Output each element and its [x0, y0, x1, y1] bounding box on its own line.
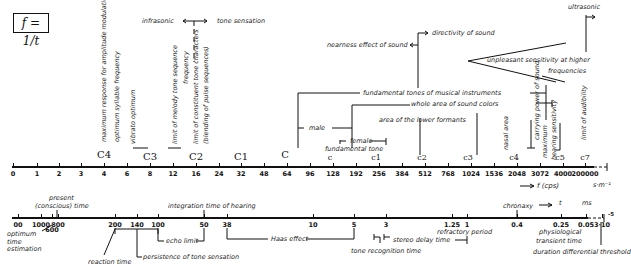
freq-tick-label: 512 [418, 171, 432, 178]
label-constituent: limit of constituent tone characters [193, 29, 200, 144]
freq-tick-label: 1536 [485, 171, 503, 178]
label-tone-sensation: tone sensation [217, 18, 265, 25]
freq-tick-label: 4 [102, 171, 107, 178]
freq-tick-label: 16 [191, 171, 200, 178]
freq-tick-label: 2048 [508, 171, 526, 178]
freq-tick-label: 256 [372, 171, 386, 178]
freq-tick-mark [471, 163, 472, 167]
time-tick-mark [517, 214, 518, 218]
freq-tick-label: 192 [349, 171, 363, 178]
time-tick-mark [467, 214, 468, 218]
freq-tick-mark [241, 163, 242, 167]
freq-tick-mark [379, 163, 380, 167]
time-tick-label: 0.4 [511, 222, 523, 229]
freq-tick-label: 3 [79, 171, 84, 178]
freq-tick-mark [356, 163, 357, 167]
freq-tick-label: 768 [441, 171, 455, 178]
time-tick-label: 5 [352, 222, 357, 229]
freq-tick-mark [333, 163, 334, 167]
time-tick-mark [204, 214, 205, 218]
freq-tick-mark [585, 163, 586, 167]
freq-tick-mark [173, 163, 174, 167]
note-C4: C4 [97, 150, 111, 160]
time-tick-label: 800 [51, 222, 65, 229]
time-tick-label: 3 [384, 222, 389, 229]
freq-tick-label: 64 [282, 171, 291, 178]
label-stereo-delay: stereo delay time [393, 237, 450, 244]
note-c: c [328, 154, 332, 162]
freq-tick-label: 1024 [462, 171, 480, 178]
freq-tick-mark [219, 163, 220, 167]
time-tick-mark [137, 214, 138, 218]
time-tick-mark [602, 214, 603, 218]
freq-tick-label: 2 [57, 171, 62, 178]
time-tick-label: 3·10 [594, 222, 610, 229]
frequency-axis [12, 166, 594, 168]
time-tick-label: 50 [199, 222, 208, 229]
label-optimum: optimum [7, 231, 36, 238]
label-vibrato: vibrato optimum [130, 90, 137, 144]
freq-tick-mark [104, 163, 105, 167]
label-echo-limit: echo limit [166, 238, 198, 245]
label-directivity: directivity of sound [432, 30, 495, 37]
freq-tick-mark [81, 163, 82, 167]
note-C3: C3 [143, 152, 157, 162]
label-female: female [350, 138, 372, 145]
freq-tick-mark [287, 163, 288, 167]
time-tick-label: 00 [13, 222, 22, 229]
freq-tick-label: 8 [148, 171, 153, 178]
time-exponent: -5 [608, 212, 614, 218]
unit-ms: ms [582, 200, 592, 207]
time-tick-label: 100 [151, 222, 165, 229]
time-tick-label: 38 [222, 222, 231, 229]
time-tick-mark [354, 214, 355, 218]
freq-tick-mark [37, 163, 38, 167]
label-infrasonic: infrasonic [142, 18, 174, 25]
freq-tick-mark [59, 163, 60, 167]
label-melody: limit of melody tone sequence [172, 45, 179, 144]
freq-tick-label: 96 [305, 171, 314, 178]
label-fundamental-instruments: fundamental tones of musical instruments [363, 90, 501, 97]
time-tick-label: 200 [108, 222, 122, 229]
time-tick-mark [586, 214, 587, 218]
time-tick-mark [41, 214, 42, 218]
freq-tick-mark [517, 163, 518, 167]
label-hearing-sensitivity: hearing sensitivity [551, 100, 558, 160]
time-tick-label: 140 [130, 222, 144, 229]
label-conscious-time: (conscious) time [35, 203, 89, 210]
label-reaction-time: reaction time [88, 259, 131, 266]
note-C: C [281, 150, 289, 160]
time-tick-mark [115, 214, 116, 218]
note-c3: c3 [463, 154, 473, 162]
time-tick-mark [313, 214, 314, 218]
note-c1: c1 [371, 154, 381, 162]
freq-tick-mark [425, 163, 426, 167]
label-fundamental-tone: fundamental tone [325, 146, 383, 153]
label-lower-formants: area of the lower formants [379, 117, 466, 124]
freq-tick-mark [196, 163, 197, 167]
label-duration-threshold: duration differential threshold [533, 249, 631, 256]
freq-tick-label: 3072 [531, 171, 549, 178]
unit-f-cps: f (cps) [537, 183, 559, 190]
freq-tick-mark [264, 163, 265, 167]
freq-tick-mark [127, 163, 128, 167]
label-male: male [309, 125, 325, 132]
time-tick-mark [386, 214, 387, 218]
label-physiological: physiological [539, 229, 581, 236]
time-tick-mark [18, 214, 19, 218]
time-axis [12, 217, 588, 219]
freq-tick-label: 128 [326, 171, 340, 178]
note-C2: C2 [189, 152, 203, 162]
freq-tick-label: 200000 [571, 171, 598, 178]
time-tick-mark [227, 214, 228, 218]
label-refractory: refractory period [437, 229, 492, 236]
time-tick-mark [158, 214, 159, 218]
time-tick-mark [452, 214, 453, 218]
freq-tick-label: 1 [35, 171, 40, 178]
freq-tick-label: 48 [259, 171, 268, 178]
label-nearness: nearness effect of sound [327, 42, 408, 49]
label-amp-mod: maximum response for amplitude modulatio… [101, 0, 108, 142]
freq-tick-label: 4000 [554, 171, 572, 178]
freq-tick-label: 24 [214, 171, 223, 178]
label-limit-audibility: limit of audibility [581, 85, 588, 140]
